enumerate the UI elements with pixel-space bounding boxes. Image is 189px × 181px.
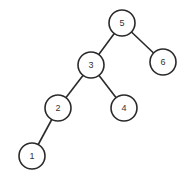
node-label: 1: [29, 151, 34, 161]
tree-node-4: 4: [111, 95, 137, 121]
tree-node-3: 3: [78, 52, 104, 78]
tree-node-5: 5: [109, 10, 135, 36]
node-label: 4: [121, 103, 126, 113]
node-label: 6: [160, 57, 165, 67]
tree-node-2: 2: [45, 95, 71, 121]
edges: [32, 23, 163, 156]
node-label: 2: [55, 103, 60, 113]
node-label: 5: [119, 18, 124, 28]
tree-node-6: 6: [150, 49, 176, 75]
node-label: 3: [88, 60, 93, 70]
binary-tree-diagram: 5 3 6 2 4 1: [0, 0, 189, 181]
tree-node-1: 1: [19, 143, 45, 169]
